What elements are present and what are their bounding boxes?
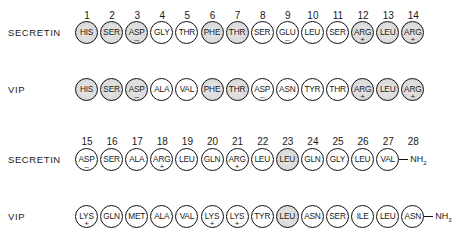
residue-circle: ASN	[301, 205, 324, 228]
charge-symbol: +	[402, 93, 423, 101]
peptide-label: VIP	[8, 84, 25, 95]
position-number: 28	[401, 136, 425, 147]
residue-circle: PHE	[201, 21, 224, 44]
position-number: 17	[125, 136, 149, 147]
residue-circle: ASN	[401, 205, 424, 228]
residue-code: HIS	[80, 27, 93, 37]
residue-code: GLN	[103, 211, 119, 221]
bond-line	[424, 216, 433, 217]
residue-circle: VAL	[175, 205, 198, 228]
peptide-label: SECRETIN	[8, 154, 61, 165]
residue-code: ASN	[304, 211, 320, 221]
residue-code: VAL	[180, 211, 194, 221]
residue-code: VAL	[180, 84, 194, 94]
charge-symbol: –	[76, 163, 97, 171]
residue-code: ALA	[129, 154, 144, 164]
residue-circle: THR	[226, 78, 249, 101]
residue-code: TYR	[254, 211, 270, 221]
position-number: 22	[251, 136, 275, 147]
position-number: 2	[100, 10, 124, 21]
residue-circle: GLU–	[276, 21, 299, 44]
residue-circle: GLN	[201, 148, 224, 171]
residue-circle: LYS+	[226, 205, 249, 228]
residue-circle: LEU	[376, 78, 399, 101]
residue-circle: ARG+	[150, 148, 173, 171]
residue-code: PHE	[204, 27, 220, 37]
residue-code: HIS	[80, 84, 93, 94]
position-number: 9	[276, 10, 300, 21]
residue-circle: SER	[326, 21, 349, 44]
position-number: 15	[75, 136, 99, 147]
terminus-subscript: 3	[448, 217, 451, 223]
residue-code: SER	[103, 154, 119, 164]
residue-circle: VAL	[175, 78, 198, 101]
position-number: 11	[326, 10, 350, 21]
position-number: 24	[301, 136, 325, 147]
residue-circle: THR	[175, 21, 198, 44]
charge-symbol: –	[126, 36, 147, 44]
residue-circle: ASN	[276, 78, 299, 101]
residue-code: THR	[229, 84, 245, 94]
residue-circle: LEU	[276, 148, 299, 171]
charge-symbol: +	[76, 220, 97, 228]
residue-circle: ILE	[351, 205, 374, 228]
position-number: 27	[376, 136, 400, 147]
charge-symbol: +	[202, 220, 223, 228]
residue-circle: ARG+	[401, 21, 424, 44]
amide-terminus: NH3	[424, 211, 451, 223]
residue-code: LEU	[280, 211, 296, 221]
charge-symbol: +	[352, 36, 373, 44]
charge-symbol: +	[402, 36, 423, 44]
residue-circle: LEU	[351, 148, 374, 171]
residue-circle: GLY	[326, 148, 349, 171]
position-number: 7	[226, 10, 250, 21]
position-number: 20	[201, 136, 225, 147]
position-number: 5	[175, 10, 199, 21]
residue-code: LEU	[179, 154, 195, 164]
position-number: 12	[351, 10, 375, 21]
position-number: 21	[226, 136, 250, 147]
residue-code: GLY	[154, 27, 169, 37]
residue-circle: SER	[100, 78, 123, 101]
amide-terminus: NH2	[399, 154, 426, 166]
residue-code: ALA	[154, 84, 169, 94]
residue-circle: LYS+	[75, 205, 98, 228]
residue-circle: ASP–	[251, 78, 274, 101]
residue-code: VAL	[380, 154, 394, 164]
residue-circle: ALA	[125, 148, 148, 171]
terminus-text: NH	[410, 154, 423, 164]
charge-symbol: +	[227, 163, 248, 171]
residue-circle: ARG+	[226, 148, 249, 171]
residue-code: LEU	[355, 154, 371, 164]
charge-symbol: +	[227, 220, 248, 228]
position-number: 10	[301, 10, 325, 21]
residue-circle: PHE	[201, 78, 224, 101]
residue-code: ASN	[279, 84, 295, 94]
residue-code: LEU	[305, 27, 321, 37]
residue-circle: THR	[326, 78, 349, 101]
residue-circle: SER	[100, 21, 123, 44]
peptide-label: VIP	[8, 211, 25, 222]
charge-symbol: –	[277, 36, 298, 44]
charge-symbol: –	[252, 93, 273, 101]
position-number: 8	[251, 10, 275, 21]
residue-code: TYR	[304, 84, 320, 94]
position-number: 16	[100, 136, 124, 147]
residue-circle: ASP–	[75, 148, 98, 171]
terminus-subscript: 2	[423, 160, 426, 166]
residue-code: SER	[329, 27, 345, 37]
position-number: 25	[326, 136, 350, 147]
residue-code: LEU	[254, 154, 270, 164]
residue-circle: ARG+	[401, 78, 424, 101]
position-number: 13	[376, 10, 400, 21]
residue-code: ILE	[357, 211, 369, 221]
charge-symbol: +	[151, 163, 172, 171]
position-number: 3	[125, 10, 149, 21]
residue-circle: LEU	[251, 148, 274, 171]
position-number: 6	[201, 10, 225, 21]
charge-symbol: –	[126, 93, 147, 101]
residue-circle: LEU	[175, 148, 198, 171]
residue-code: LEU	[280, 154, 296, 164]
residue-code: SER	[329, 211, 345, 221]
position-number: 26	[351, 136, 375, 147]
